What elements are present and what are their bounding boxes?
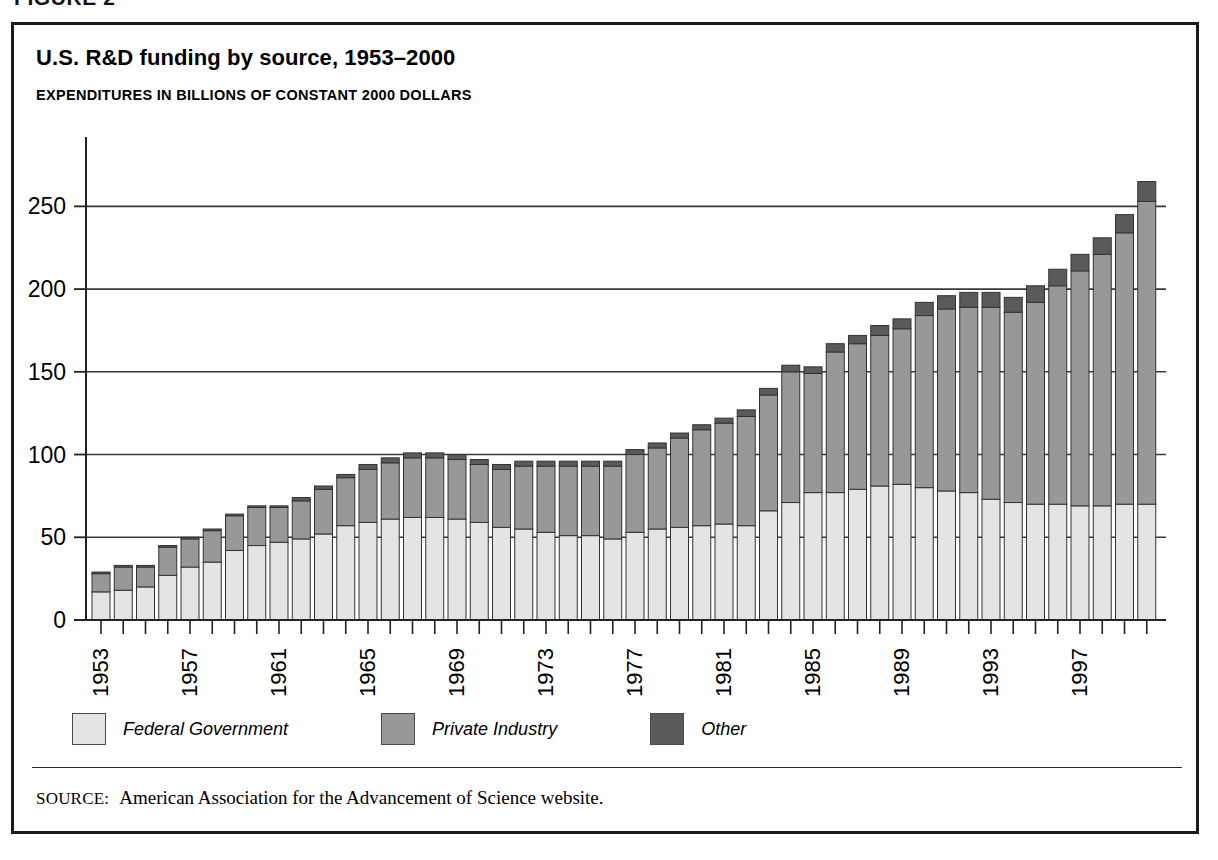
bar-segment-other [626,450,644,455]
x-axis-tick-label: 1981 [711,648,736,697]
bar-1988 [871,325,889,620]
bar-segment-other [381,458,399,463]
bar-segment-private [470,464,488,522]
bar-1955 [137,565,155,620]
bar-segment-other [1116,215,1134,233]
bar-segment-private [604,466,622,539]
figure-number-label: FIGURE 2 [14,0,116,10]
bar-segment-other [1093,238,1111,255]
bar-segment-private [871,335,889,486]
bar-segment-private [137,567,155,587]
bar-segment-private [404,458,422,518]
bar-segment-other [159,546,177,548]
bar-segment-other [470,460,488,465]
legend-label-other: Other [701,719,746,740]
bar-segment-private [648,448,666,529]
bar-1966 [381,458,399,620]
bar-segment-private [582,466,600,535]
bar-segment-federal [693,526,711,620]
chart-legend: Federal Government Private Industry Othe… [72,713,746,745]
bar-segment-federal [537,532,555,620]
bar-segment-private [159,547,177,575]
bar-segment-federal [226,551,244,620]
bar-1968 [426,453,444,620]
bar-segment-private [982,307,1000,499]
bar-1987 [849,335,867,620]
bar-segment-federal [1071,506,1089,620]
bar-1979 [671,433,689,620]
bar-segment-private [181,539,199,567]
x-axis-tick-label: 1993 [978,648,1003,697]
bar-segment-private [804,373,822,492]
bar-segment-private [493,469,511,527]
bar-segment-private [960,307,978,492]
bar-1962 [292,498,310,620]
bar-segment-other [248,506,266,508]
x-axis-tick-label: 1957 [177,648,202,697]
bar-segment-private [782,372,800,503]
bar-segment-federal [203,562,221,620]
bar-segment-federal [1027,504,1045,620]
bar-1964 [337,474,355,620]
bar-segment-other [1027,286,1045,303]
bar-segment-private [292,501,310,539]
bar-segment-private [1049,286,1067,504]
bar-segment-federal [337,526,355,620]
bar-segment-federal [648,529,666,620]
source-note: SOURCE:American Association for the Adva… [36,787,604,809]
bar-1978 [648,443,666,620]
bar-segment-other [559,461,577,466]
bar-1986 [826,344,844,620]
x-axis-tick-label: 1969 [444,648,469,697]
bar-segment-private [426,458,444,518]
bar-segment-private [737,416,755,525]
bar-segment-other [671,433,689,438]
source-text: American Association for the Advancement… [119,787,603,808]
bar-segment-other [915,302,933,315]
bar-segment-other [893,319,911,329]
bar-1999 [1116,215,1134,620]
bar-segment-federal [359,522,377,620]
bar-segment-federal [760,511,778,620]
bar-1963 [315,486,333,620]
y-axis-tick-label: 50 [40,524,66,550]
bar-segment-private [559,466,577,535]
bar-1958 [203,529,221,620]
bar-segment-other [648,443,666,448]
bar-1974 [559,461,577,620]
bar-segment-other [515,461,533,466]
bar-1971 [493,464,511,620]
bar-1967 [404,453,422,620]
bar-segment-federal [448,519,466,620]
bar-segment-other [1138,182,1156,202]
bar-segment-other [1049,269,1067,286]
bar-segment-other [982,292,1000,307]
bar-segment-private [1138,201,1156,504]
bar-segment-federal [559,536,577,620]
bar-segment-private [1093,254,1111,505]
bar-segment-other [493,464,511,469]
bar-segment-private [915,316,933,488]
bar-1957 [181,537,199,620]
bar-segment-other [693,425,711,430]
bar-1985 [804,367,822,620]
bar-segment-federal [426,517,444,620]
bar-1960 [248,506,266,620]
bar-segment-private [515,466,533,529]
source-kicker: SOURCE: [36,789,109,808]
bar-segment-private [203,531,221,562]
legend-swatch-federal-government [72,713,106,745]
bar-1996 [1049,269,1067,620]
legend-item-private-industry: Private Industry [381,713,557,745]
stacked-bar-chart: 0501001502002501953195719611965196919731… [14,25,1202,725]
bar-segment-private [1027,302,1045,504]
bar-segment-other [804,367,822,374]
bar-segment-federal [381,519,399,620]
bar-1976 [604,461,622,620]
bar-segment-federal [938,491,956,620]
bar-segment-federal [671,527,689,620]
x-axis-tick-label: 1965 [355,648,380,697]
bar-1982 [737,410,755,620]
bar-segment-private [448,460,466,520]
bar-segment-other [960,292,978,307]
